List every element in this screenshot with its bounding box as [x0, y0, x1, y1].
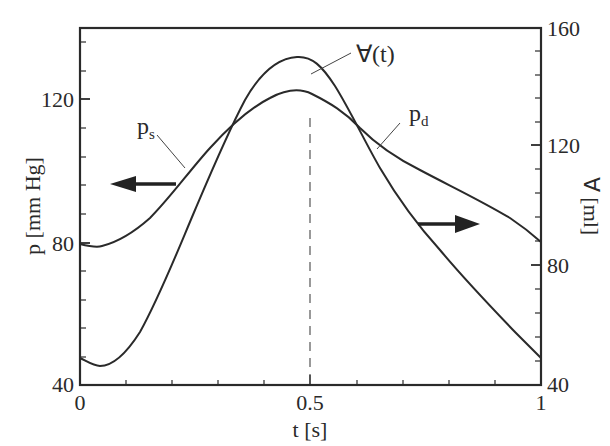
- y-right-tick-160: 160: [547, 16, 580, 41]
- volume-curve: [80, 57, 541, 366]
- x-tick-0-5: 0.5: [296, 390, 324, 415]
- y-right-tick-40: 40: [547, 372, 569, 397]
- x-axis-label: t [s]: [293, 417, 328, 442]
- volume-label: ∀(t): [356, 41, 395, 67]
- pd-label: pd: [409, 100, 429, 129]
- right-axis-arrow-icon: [418, 215, 480, 233]
- x-tick-0: 0: [75, 390, 86, 415]
- x-tick-1: 1: [536, 390, 547, 415]
- y-right-axis-label: ∀ [ml]: [579, 177, 604, 235]
- y-left-axis-label: p [mm Hg]: [20, 157, 45, 255]
- y-left-ticks: [80, 42, 90, 357]
- ps-label: ps: [137, 113, 155, 142]
- chart: ps pd ∀(t) 0 0.5 1 t [s] 40 80 120 p [mm…: [0, 0, 610, 446]
- pd-leader-line: [377, 123, 400, 149]
- y-right-tick-80: 80: [547, 253, 569, 278]
- y-right-tick-120: 120: [547, 133, 580, 158]
- ps-leader-line: [157, 135, 185, 168]
- y-right-ticks: [531, 51, 541, 361]
- left-axis-arrow-icon: [110, 176, 176, 192]
- y-left-tick-80: 80: [52, 231, 74, 256]
- y-left-tick-40: 40: [52, 372, 74, 397]
- y-left-tick-120: 120: [41, 87, 74, 112]
